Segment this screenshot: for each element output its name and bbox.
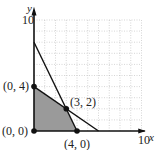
point-label-0-0: (0, 0) xyxy=(2,125,28,137)
x-axis-label: x xyxy=(149,132,154,143)
vertex-point xyxy=(31,128,37,134)
vertex-point xyxy=(31,84,37,90)
point-label-4-0: (4, 0) xyxy=(64,138,90,150)
point-label-3-2: (3, 2) xyxy=(70,96,96,108)
y-tick-label: 10 xyxy=(22,14,34,26)
vertex-point xyxy=(74,128,80,134)
point-label-0-4: (0, 4) xyxy=(3,80,29,92)
vertex-point xyxy=(63,106,69,112)
